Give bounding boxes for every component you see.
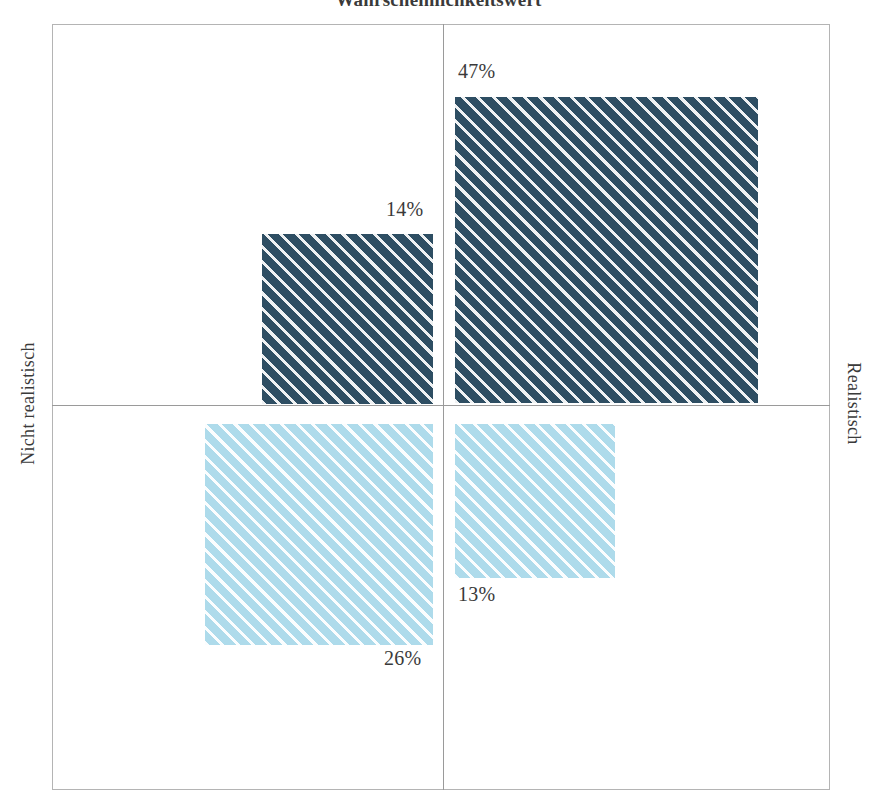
quadrant-box-top-right xyxy=(455,97,758,403)
value-label-top-left: 14% xyxy=(386,198,423,221)
quadrant-axis-vertical xyxy=(443,24,444,790)
hatch-fill-dark xyxy=(455,97,758,403)
quadrant-chart-figure: Wahrscheinlichkeitswert Nicht realistisc… xyxy=(0,0,877,806)
quadrant-axis-horizontal xyxy=(52,405,830,406)
value-label-bottom-left: 26% xyxy=(384,647,421,670)
quadrant-box-bottom-right xyxy=(455,424,615,578)
axis-label-right: Realistisch xyxy=(843,284,864,524)
chart-title: Wahrscheinlichkeitswert xyxy=(0,0,877,13)
value-label-bottom-right: 13% xyxy=(458,583,495,606)
axis-label-left: Nicht realistisch xyxy=(18,284,39,524)
hatch-fill-light xyxy=(455,424,615,578)
quadrant-box-top-left xyxy=(262,234,433,404)
hatch-fill-dark xyxy=(262,234,433,404)
value-label-top-right: 47% xyxy=(458,60,495,83)
hatch-fill-light xyxy=(205,424,433,645)
quadrant-box-bottom-left xyxy=(205,424,433,645)
